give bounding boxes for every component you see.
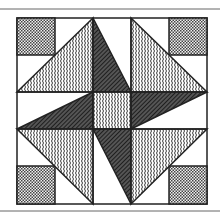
center-square bbox=[93, 92, 131, 129]
quilt-block-figure bbox=[0, 0, 220, 213]
corner-square-top-left bbox=[17, 18, 55, 55]
corner-square-top-right bbox=[169, 18, 207, 55]
corner-square-bottom-left bbox=[17, 166, 55, 204]
corner-square-bottom-right bbox=[169, 166, 207, 204]
